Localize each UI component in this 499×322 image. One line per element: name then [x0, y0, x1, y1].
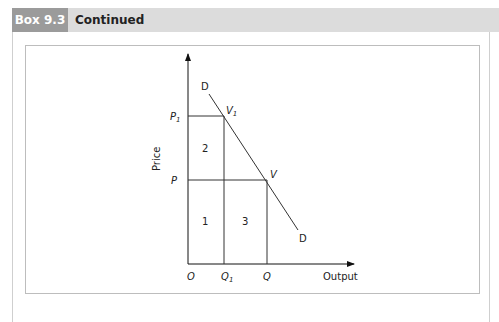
quantity-label-q1: Q1 — [221, 271, 233, 284]
quantity-label-q: Q — [263, 271, 271, 282]
area-label-1: 1 — [202, 216, 208, 227]
price-label-p1: P1 — [170, 111, 181, 124]
area-label-2: 2 — [202, 143, 208, 154]
price-label-p: P — [171, 175, 178, 186]
point-label-v: V — [270, 169, 278, 180]
x-axis-label: Output — [323, 271, 358, 282]
demand-curve — [209, 94, 298, 230]
curve-label-top: D — [201, 81, 209, 92]
y-axis-label: Price — [151, 147, 162, 171]
area-label-3: 3 — [242, 216, 248, 227]
origin-label: O — [187, 271, 195, 282]
point-label-v1: V1 — [226, 105, 237, 118]
curve-label-bottom: D — [299, 233, 307, 244]
